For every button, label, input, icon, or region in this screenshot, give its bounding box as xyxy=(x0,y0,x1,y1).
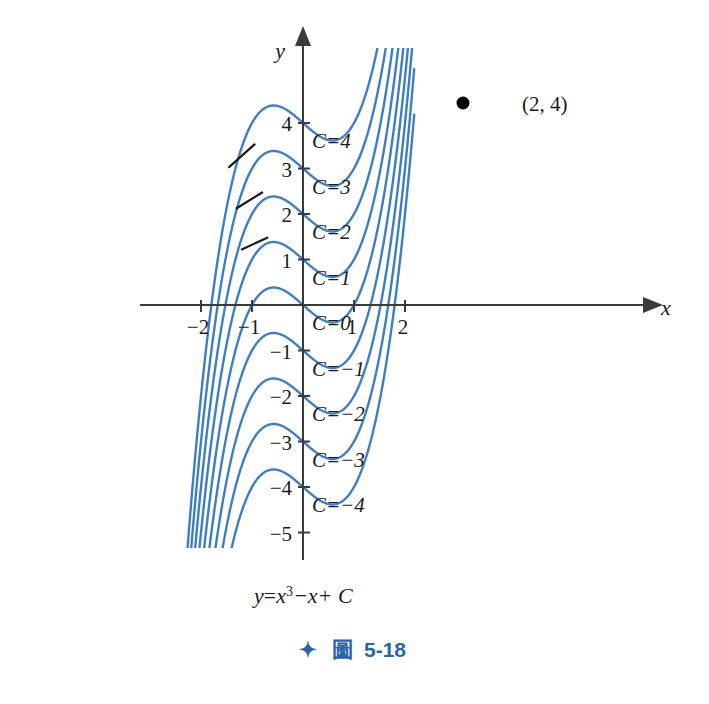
x-axis-label: x xyxy=(660,295,671,320)
curve-label-c-2: C=2 xyxy=(312,220,351,244)
figure-caption: ✦ 圖 5-18 xyxy=(299,638,406,661)
y-axis-label: y xyxy=(273,38,285,63)
point-label: (2, 4) xyxy=(522,92,568,116)
equation-plus-c: + C xyxy=(318,583,353,608)
y-tick-label: 4 xyxy=(282,112,293,136)
equation-equals: = xyxy=(264,583,276,608)
figure-container: −2−112 4321−1−2−3−4−5 x y C=4C=3C=2C=1C=… xyxy=(0,0,709,704)
y-tick-label: −3 xyxy=(270,431,292,455)
y-tick-label: 2 xyxy=(282,203,293,227)
equation-minus-x: −x xyxy=(293,583,318,608)
curve-label-c-neg1: C=−1 xyxy=(312,357,365,381)
y-tick-label: −2 xyxy=(270,385,292,409)
axes-group xyxy=(140,44,645,560)
tangent-segment-3 xyxy=(242,238,267,250)
caption-label: 圖 xyxy=(332,638,353,661)
curve-label-c-4: C=4 xyxy=(312,129,351,153)
marked-point xyxy=(457,97,470,110)
curve-family-plot: −2−112 4321−1−2−3−4−5 x y C=4C=3C=2C=1C=… xyxy=(0,0,709,704)
x-tick-label: 2 xyxy=(398,315,409,339)
curve-label-c-3: C=3 xyxy=(312,175,351,199)
equation-exponent: 3 xyxy=(286,584,293,599)
curve-group xyxy=(187,40,414,559)
y-tick-label: 1 xyxy=(282,249,293,273)
y-tick-label: 3 xyxy=(282,158,293,182)
curve-label-c-neg4: C=−4 xyxy=(312,493,365,517)
caption-number: 5-18 xyxy=(364,638,406,661)
equation-x: x xyxy=(275,583,286,608)
x-tick-label: −2 xyxy=(187,315,209,339)
curve-label-group: C=4C=3C=2C=1C=0C=−1C=−2C=−3C=−4 xyxy=(312,129,365,517)
y-tick-label: −1 xyxy=(270,340,292,364)
y-tick-label: −4 xyxy=(270,476,293,500)
equation-text: y=x3−x+ C xyxy=(252,583,353,608)
curve-cm-2 xyxy=(214,42,412,557)
curve-label-c-1: C=1 xyxy=(312,266,351,290)
caption-star-icon: ✦ xyxy=(299,638,317,661)
x-tick-label: −1 xyxy=(238,315,260,339)
tangent-segment-group xyxy=(229,144,267,249)
curve-label-c-0: C=0 xyxy=(312,311,351,335)
y-tick-label: −5 xyxy=(270,522,292,546)
equation-lhs: y xyxy=(252,583,264,608)
curve-label-c-neg3: C=−3 xyxy=(312,448,365,472)
curve-label-c-neg2: C=−2 xyxy=(312,402,365,426)
